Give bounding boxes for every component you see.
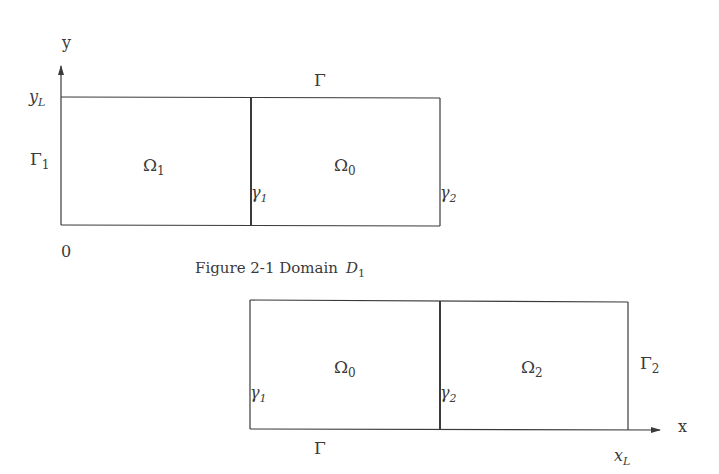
figure-top: y yL Γ Γ1 Ω1 Ω0 γ1 γ2 0 Figure 2-1 Domai… [28, 33, 457, 280]
figure-caption: Figure 2-1 DomainD1 [195, 259, 365, 280]
origin-label: 0 [61, 242, 71, 261]
region-omega0-bottom: Ω0 [334, 357, 356, 380]
region-omega0-top: Ω0 [334, 155, 356, 178]
interface-gamma1-label: γ1 [251, 183, 268, 205]
boundary-gamma-bottom: Γ [314, 438, 326, 458]
boundary-gamma2: Γ2 [640, 353, 659, 376]
region-omega1: Ω1 [143, 155, 165, 178]
interface-gamma1-bottom-label: γ1 [250, 383, 267, 405]
region-omega2: Ω2 [521, 357, 543, 380]
boundary-gamma1: Γ1 [30, 149, 49, 172]
x-axis [250, 429, 660, 430]
y-axis-label: y [61, 33, 71, 52]
figure-bottom: Ω0 Ω2 Γ2 γ1 γ2 x Γ xL [250, 300, 687, 468]
domain-diagram: y yL Γ Γ1 Ω1 Ω0 γ1 γ2 0 Figure 2-1 Domai… [0, 0, 719, 474]
x-axis-label: x [678, 417, 687, 436]
interface-gamma2-label: γ2 [440, 183, 457, 205]
boundary-gamma-top: Γ [314, 70, 326, 90]
interface-gamma2-bottom-label: γ2 [440, 383, 457, 405]
x-tick-label: xL [614, 446, 630, 468]
y-tick-label: yL [28, 87, 45, 109]
